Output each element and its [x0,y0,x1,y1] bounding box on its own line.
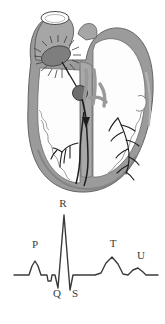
ecg-label-q: Q [53,287,61,299]
ecg-label-s: S [72,287,78,299]
ecg-label-r: R [59,197,67,209]
cardiac-conduction-figure: P R Q S T U [0,0,165,324]
ecg-label-p: P [32,238,38,250]
vessel-lumen-inner [45,15,65,23]
ecg-label-t: T [110,237,117,249]
ecg-label-u: U [137,249,145,261]
